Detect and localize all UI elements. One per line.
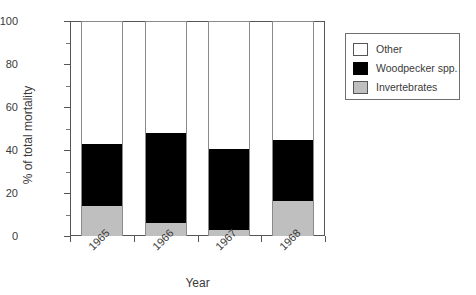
stacked-bar[interactable] bbox=[208, 21, 250, 236]
legend-label-other: Other bbox=[376, 44, 402, 55]
y-axis: % of total mortality 020406080100 bbox=[0, 0, 70, 295]
legend-item-invertebrates[interactable]: Invertebrates bbox=[353, 78, 452, 97]
x-tick bbox=[198, 236, 199, 242]
y-tick-major bbox=[64, 193, 70, 194]
y-axis-title: % of total mortality bbox=[21, 45, 35, 225]
legend-label-invertebrates: Invertebrates bbox=[376, 82, 437, 93]
y-tick-major bbox=[64, 107, 70, 108]
stacked-bar[interactable] bbox=[81, 21, 123, 236]
bar-segment-woodpecker bbox=[82, 144, 122, 206]
x-tick bbox=[261, 236, 262, 242]
y-tick-minor bbox=[66, 43, 70, 44]
stacked-bar[interactable] bbox=[145, 21, 187, 236]
bar-segment-woodpecker bbox=[146, 133, 186, 223]
y-tick-minor bbox=[66, 86, 70, 87]
y-tick-major bbox=[64, 64, 70, 65]
chart-legend: Other Woodpecker spp. Invertebrates bbox=[345, 33, 460, 100]
legend-label-woodpecker: Woodpecker spp. bbox=[376, 63, 458, 74]
y-tick-label: 40 bbox=[6, 144, 18, 156]
chart-figure: % of total mortality 020406080100 Year 1… bbox=[0, 0, 476, 295]
bar-segment-woodpecker bbox=[209, 149, 249, 230]
y-tick-major bbox=[64, 150, 70, 151]
y-tick-label: 80 bbox=[6, 58, 18, 70]
stacked-bar[interactable] bbox=[272, 21, 314, 236]
legend-item-woodpecker[interactable]: Woodpecker spp. bbox=[353, 59, 452, 78]
y-tick-major bbox=[64, 21, 70, 22]
x-axis-title: Year bbox=[70, 276, 325, 290]
y-tick-label: 100 bbox=[0, 15, 18, 27]
y-tick-label: 0 bbox=[12, 230, 18, 242]
gray-swatch-icon bbox=[353, 81, 368, 94]
y-tick-minor bbox=[66, 172, 70, 173]
x-tick bbox=[325, 236, 326, 242]
y-tick-minor bbox=[66, 129, 70, 130]
bar-segment-woodpecker bbox=[273, 140, 313, 201]
white-swatch-icon bbox=[353, 43, 368, 56]
legend-item-other[interactable]: Other bbox=[353, 40, 452, 59]
y-tick-label: 20 bbox=[6, 187, 18, 199]
y-tick-label: 60 bbox=[6, 101, 18, 113]
y-tick-minor bbox=[66, 215, 70, 216]
black-swatch-icon bbox=[353, 62, 368, 75]
x-tick bbox=[134, 236, 135, 242]
x-tick bbox=[70, 236, 71, 242]
